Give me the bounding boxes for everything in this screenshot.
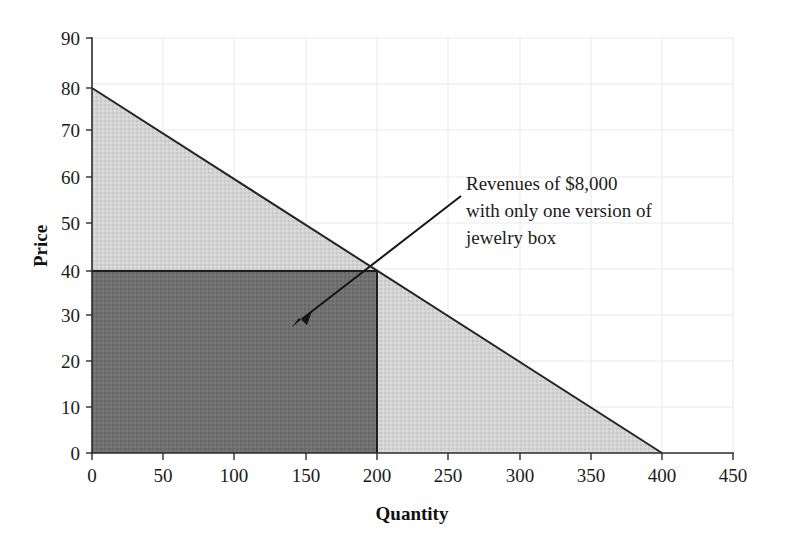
annotation-line-2: with only one version of bbox=[466, 200, 652, 221]
revenue-rectangle-region bbox=[92, 271, 377, 453]
y-tick-label-50: 50 bbox=[61, 213, 80, 234]
x-tick-label-250: 250 bbox=[434, 465, 463, 486]
x-tick-label-0: 0 bbox=[87, 465, 97, 486]
y-tick-label-90: 90 bbox=[61, 28, 80, 49]
annotation-line-1: Revenues of $8,000 bbox=[466, 173, 617, 194]
x-tick-label-200: 200 bbox=[363, 465, 392, 486]
y-tick-label-40: 40 bbox=[61, 261, 80, 282]
annotation-line-3: jewelry box bbox=[465, 227, 557, 248]
chart-svg: 0 10 20 30 40 50 60 70 80 90 Price bbox=[0, 0, 786, 546]
x-tick-label-100: 100 bbox=[220, 465, 249, 486]
x-tick-label-400: 400 bbox=[648, 465, 677, 486]
y-tick-label-20: 20 bbox=[61, 351, 80, 372]
y-tick-label-70: 70 bbox=[61, 120, 80, 141]
x-tick-label-450: 450 bbox=[719, 465, 748, 486]
y-tick-label-80: 80 bbox=[61, 78, 80, 99]
y-tick-label-10: 10 bbox=[61, 397, 80, 418]
chart-figure: 0 10 20 30 40 50 60 70 80 90 Price bbox=[0, 0, 786, 546]
y-tick-label-30: 30 bbox=[61, 305, 80, 326]
y-tick-label-0: 0 bbox=[71, 443, 81, 464]
x-tick-label-50: 50 bbox=[154, 465, 173, 486]
x-tick-label-300: 300 bbox=[506, 465, 535, 486]
y-axis-title: Price bbox=[30, 225, 51, 267]
y-tick-label-60: 60 bbox=[61, 167, 80, 188]
x-tick-label-350: 350 bbox=[577, 465, 606, 486]
x-axis-title: Quantity bbox=[376, 503, 449, 524]
x-tick-label-150: 150 bbox=[292, 465, 321, 486]
